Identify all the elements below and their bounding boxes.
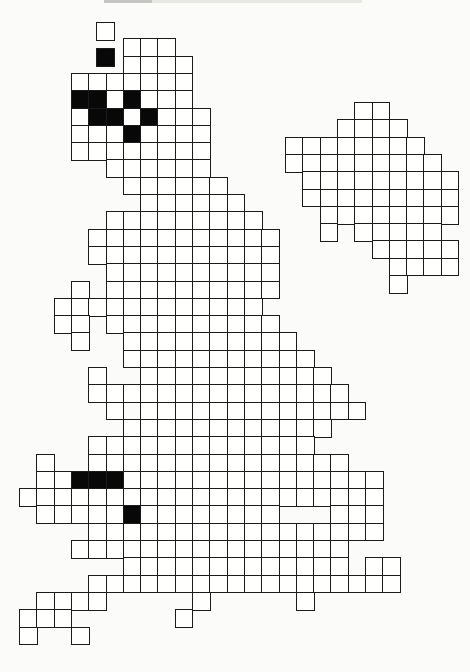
grid-cell: [348, 523, 367, 542]
grid-cell: [175, 523, 194, 542]
grid-cell: [140, 540, 159, 559]
grid-cell: [175, 194, 194, 213]
grid-cell: [227, 263, 246, 282]
grid-cell: [88, 575, 107, 594]
grid-cell: [192, 419, 211, 438]
grid-cell: [261, 471, 280, 490]
grid-cell: [330, 402, 349, 421]
grid-cell: [123, 159, 142, 178]
grid-cell: [389, 137, 408, 156]
grid-cell: [106, 229, 125, 248]
grid-cell: [261, 540, 280, 559]
grid-cell: [296, 402, 315, 421]
grid-cell: [313, 488, 332, 507]
grid-cell: [209, 436, 228, 455]
grid-cell: [227, 419, 246, 438]
grid-cell: [209, 263, 228, 282]
grid-cell: [140, 194, 159, 213]
grid-cell: [209, 350, 228, 369]
record-cell-filled: [88, 471, 107, 490]
grid-cell: [296, 367, 315, 386]
grid-cell: [106, 125, 125, 144]
record-cell-filled: [123, 505, 142, 524]
grid-cell: [192, 246, 211, 265]
grid-cell: [140, 142, 159, 161]
grid-cell: [423, 206, 442, 225]
grid-cell: [140, 315, 159, 334]
grid-cell: [279, 575, 298, 594]
grid-cell: [244, 350, 263, 369]
grid-cell: [88, 142, 107, 161]
grid-cell: [192, 194, 211, 213]
grid-cell: [209, 281, 228, 300]
grid-cell: [209, 332, 228, 351]
grid-cell: [244, 488, 263, 507]
grid-cell: [175, 384, 194, 403]
grid-cell: [192, 142, 211, 161]
grid-cell: [244, 332, 263, 351]
grid-cell: [279, 557, 298, 576]
grid-cell: [313, 523, 332, 542]
grid-cell: [365, 488, 384, 507]
grid-cell: [140, 402, 159, 421]
grid-cell: [244, 523, 263, 542]
grid-cell: [175, 298, 194, 317]
grid-cell: [88, 505, 107, 524]
grid-cell: [19, 609, 38, 628]
grid-cell: [175, 454, 194, 473]
grid-cell: [123, 488, 142, 507]
grid-cell: [140, 56, 159, 75]
grid-cell: [192, 229, 211, 248]
grid-cell: [320, 171, 339, 190]
grid-cell: [337, 154, 356, 173]
grid-cell: [244, 367, 263, 386]
grid-cell: [157, 402, 176, 421]
grid-cell: [227, 229, 246, 248]
grid-cell: [382, 575, 401, 594]
grid-cell: [354, 171, 373, 190]
grid-cell: [106, 540, 125, 559]
grid-cell: [389, 275, 408, 294]
grid-cell: [192, 575, 211, 594]
grid-cell: [227, 194, 246, 213]
grid-cell: [209, 246, 228, 265]
grid-cell: [140, 159, 159, 178]
grid-cell: [354, 154, 373, 173]
grid-cell: [302, 137, 321, 156]
grid-cell: [354, 102, 373, 121]
grid-cell: [123, 142, 142, 161]
grid-cell: [140, 298, 159, 317]
grid-cell: [209, 211, 228, 230]
grid-cell: [175, 108, 194, 127]
grid-cell: [313, 540, 332, 559]
grid-cell: [88, 125, 107, 144]
grid-cell: [382, 557, 401, 576]
grid-cell: [175, 609, 194, 628]
grid-cell: [227, 557, 246, 576]
grid-cell: [261, 557, 280, 576]
grid-cell: [389, 119, 408, 138]
grid-cell: [406, 171, 425, 190]
grid-cell: [354, 189, 373, 208]
grid-cell: [192, 125, 211, 144]
grid-cell: [261, 505, 280, 524]
grid-cell: [296, 575, 315, 594]
grid-cell: [157, 211, 176, 230]
record-cell-filled: [106, 108, 125, 127]
grid-cell: [348, 505, 367, 524]
grid-cell: [330, 488, 349, 507]
grid-cell: [140, 332, 159, 351]
grid-cell: [140, 384, 159, 403]
grid-cell: [244, 454, 263, 473]
grid-cell: [157, 229, 176, 248]
grid-cell: [209, 194, 228, 213]
grid-cell: [244, 211, 263, 230]
grid-cell: [106, 90, 125, 109]
grid-cell: [209, 315, 228, 334]
grid-cell: [19, 488, 38, 507]
grid-cell: [140, 367, 159, 386]
grid-cell: [106, 505, 125, 524]
grid-cell: [106, 436, 125, 455]
grid-cell: [320, 154, 339, 173]
grid-cell: [423, 258, 442, 277]
